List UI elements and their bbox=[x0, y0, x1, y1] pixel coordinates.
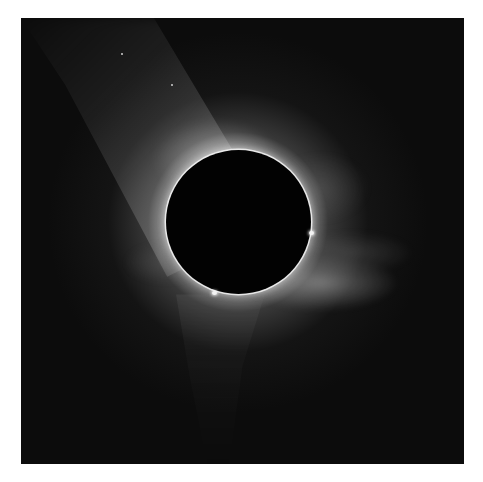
moon-disk bbox=[166, 150, 311, 294]
star bbox=[121, 53, 123, 55]
star bbox=[171, 84, 173, 86]
prominence-bottom bbox=[212, 291, 217, 295]
prominence-right bbox=[309, 231, 314, 235]
eclipse-photo bbox=[21, 18, 464, 464]
